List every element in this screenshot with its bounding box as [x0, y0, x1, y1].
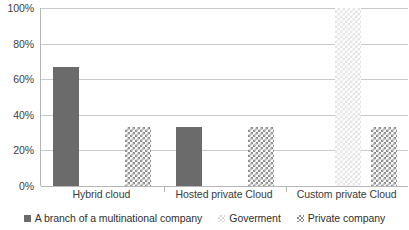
bar: [125, 127, 151, 186]
bar: [176, 127, 202, 186]
x-tick-label: Hosted private Cloud: [175, 188, 272, 201]
legend-swatch-icon: [218, 215, 225, 222]
bar-chart: 0%20%40%60%80%100% Hybrid cloudHosted pr…: [0, 0, 409, 230]
legend-label: Goverment: [229, 212, 281, 224]
y-tick-label: 20%: [13, 145, 34, 156]
y-tick-label: 80%: [13, 38, 34, 49]
bar: [335, 8, 361, 186]
legend-item[interactable]: A branch of a multinational company: [24, 212, 203, 224]
x-tick-label: Custom private Cloud: [297, 188, 397, 201]
y-tick-label: 60%: [13, 74, 34, 85]
x-tick-label: Hybrid cloud: [72, 188, 130, 201]
plot-area: [40, 8, 408, 186]
bars-layer: [41, 8, 408, 186]
y-tick-label: 0%: [19, 181, 34, 192]
chart-legend: A branch of a multinational companyGover…: [0, 210, 409, 226]
legend-item[interactable]: Goverment: [218, 212, 281, 224]
legend-swatch-icon: [297, 215, 304, 222]
axis-baseline: [41, 186, 408, 187]
bar: [53, 67, 79, 186]
legend-swatch-icon: [24, 215, 31, 222]
bar: [248, 127, 274, 186]
y-tick-label: 40%: [13, 109, 34, 120]
legend-label: Private company: [308, 212, 385, 224]
y-axis: 0%20%40%60%80%100%: [0, 0, 38, 196]
legend-item[interactable]: Private company: [297, 212, 385, 224]
y-tick-label: 100%: [8, 3, 34, 14]
plot-wrapper: 0%20%40%60%80%100% Hybrid cloudHosted pr…: [0, 0, 409, 196]
bar: [371, 127, 397, 186]
legend-label: A branch of a multinational company: [35, 212, 203, 224]
x-axis: Hybrid cloudHosted private CloudCustom p…: [40, 188, 408, 206]
